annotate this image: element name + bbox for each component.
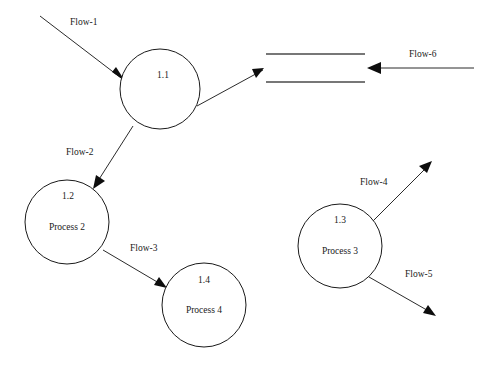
- data-store-1[interactable]: [266, 54, 365, 82]
- process-1-1[interactable]: 1.1: [120, 49, 200, 129]
- arrow-head-flow4: [419, 161, 432, 173]
- arrow-head-store-in: [252, 68, 264, 78]
- flow-label-flow5: Flow-5: [405, 269, 433, 279]
- process-circle-1-1[interactable]: [120, 49, 200, 129]
- flow-flow3[interactable]: Flow-3: [103, 243, 167, 288]
- arrow-head-flow6: [367, 62, 381, 74]
- process-1-4[interactable]: 1.4 Process 4: [162, 263, 246, 347]
- arrow-head-flow2: [93, 175, 105, 189]
- process-name-1-4: Process 4: [186, 305, 222, 315]
- flow-label-flow4: Flow-4: [360, 177, 388, 187]
- flow-flow2[interactable]: Flow-2: [66, 126, 133, 189]
- flow-label-flow3: Flow-3: [130, 243, 158, 253]
- flow-line-store-in[interactable]: [197, 70, 263, 106]
- flow-label-flow6: Flow-6: [409, 49, 437, 59]
- flow-label-flow2: Flow-2: [66, 147, 94, 157]
- flow-line-flow5[interactable]: [369, 277, 432, 313]
- arrow-head-flow5: [423, 305, 436, 316]
- process-number-1-2: 1.2: [62, 191, 74, 201]
- process-number-1-1: 1.1: [157, 70, 169, 80]
- process-1-3[interactable]: 1.3 Process 3: [298, 204, 382, 288]
- flow-flow1[interactable]: Flow-1: [40, 16, 125, 81]
- flow-line-flow3[interactable]: [103, 250, 164, 286]
- process-number-1-4: 1.4: [198, 275, 210, 285]
- flow-label-flow1: Flow-1: [70, 17, 98, 27]
- flow-line-flow2[interactable]: [96, 126, 133, 184]
- process-name-1-3: Process 3: [322, 246, 358, 256]
- arrow-head-flow3: [154, 277, 167, 288]
- flow-line-flow4[interactable]: [372, 165, 429, 222]
- flow-flow4[interactable]: Flow-4: [360, 161, 432, 222]
- process-number-1-3: 1.3: [334, 215, 346, 225]
- process-name-1-2: Process 2: [49, 222, 85, 232]
- process-1-2[interactable]: 1.2 Process 2: [25, 180, 109, 264]
- flow-to-datastore[interactable]: [197, 68, 264, 106]
- dfd-svg: Flow-1 Flow-6 Flow-2 Flow-3: [0, 0, 497, 373]
- flow-layer: Flow-1 Flow-6 Flow-2 Flow-3: [40, 16, 474, 316]
- flow-flow6[interactable]: Flow-6: [367, 49, 474, 74]
- flow-flow5[interactable]: Flow-5: [369, 269, 436, 316]
- dfd-canvas: Flow-1 Flow-6 Flow-2 Flow-3: [0, 0, 497, 373]
